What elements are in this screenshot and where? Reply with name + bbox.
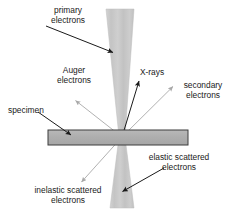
specimen-bar	[48, 130, 188, 145]
label-primary-electrons: primary electrons	[32, 5, 104, 25]
label-auger-electrons: Auger electrons	[40, 65, 108, 85]
label-elastic-scattered-electrons: elastic scattered electrons	[130, 152, 228, 172]
label-secondary-electrons: secondary electrons	[172, 80, 234, 100]
label-specimen: specimen	[8, 105, 68, 115]
primary-electrons-leader	[46, 26, 113, 53]
label-xrays: X-rays	[130, 67, 174, 77]
label-inelastic-scattered-electrons: inelastic scattered electrons	[10, 185, 126, 205]
electron-interaction-diagram: primary electrons Auger electrons X-rays…	[0, 0, 235, 217]
